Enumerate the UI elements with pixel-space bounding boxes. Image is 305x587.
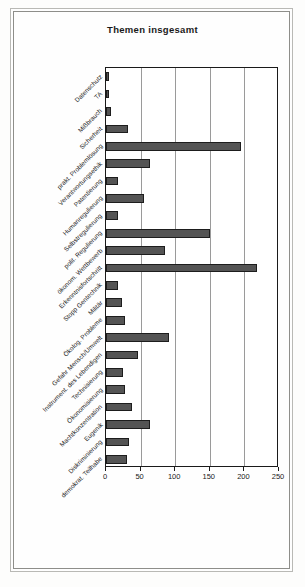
y-axis-category-label: Sicherheit [78, 125, 103, 150]
x-axis-tick-label: 250 [263, 472, 293, 481]
y-axis-category-label: TA [93, 90, 103, 100]
bar-row [106, 159, 277, 168]
y-axis-category-label: Diskriminierung [67, 438, 104, 475]
bar-row [106, 90, 277, 99]
bar-row [106, 385, 277, 394]
bar-series [106, 68, 277, 466]
bar-row [106, 455, 277, 464]
bar [106, 455, 127, 464]
x-axis-tick-label: 200 [228, 472, 258, 481]
bar [106, 142, 241, 151]
y-axis-category-label: Stopp Gentechnik [62, 281, 103, 322]
bar-row [106, 229, 277, 238]
x-axis-tick [278, 467, 279, 471]
y-axis-category-label: Gefahr Mensch/Umwelt [51, 334, 104, 387]
y-axis-category-label: Selbstregulierung [63, 212, 104, 253]
y-axis-category-label: Ökonomisierung [65, 386, 103, 424]
bar-row [106, 298, 277, 307]
bar [106, 298, 122, 307]
bar [106, 177, 118, 186]
x-axis-tick [105, 467, 106, 471]
y-axis-category-label: prakt. Problemlösung [55, 142, 103, 190]
bar-row [106, 403, 277, 412]
chart-figure: 050100150200250 DatenschutzTAMißbrauchSi… [0, 0, 305, 587]
y-axis-category-label: Machtkonzentration [58, 403, 103, 448]
x-axis-tick [174, 467, 175, 471]
bar-row [106, 281, 277, 290]
bar-row [106, 368, 277, 377]
x-axis-tick-label: 50 [125, 472, 155, 481]
bar [106, 229, 210, 238]
y-axis-category-label: Technisierung [70, 368, 103, 401]
bar [106, 403, 132, 412]
bar-row [106, 72, 277, 81]
bar-row [106, 211, 277, 220]
bar [106, 72, 109, 81]
bar-row [106, 316, 277, 325]
bar [106, 420, 150, 429]
x-axis-tick-label: 150 [194, 472, 224, 481]
y-axis-category-label: Eugenik [82, 421, 104, 443]
bar-row [106, 107, 277, 116]
bar [106, 351, 138, 360]
bar [106, 194, 144, 203]
y-axis-category-label: Militär [86, 299, 103, 316]
bar [106, 264, 257, 273]
y-axis-category-label: Ökolog. Probleme [62, 316, 104, 358]
y-axis-category-label: Humanregulierung [61, 194, 104, 237]
y-axis-category-label: Erkenntnisfortschritt [58, 264, 104, 310]
x-axis-tick-label: 0 [90, 472, 120, 481]
bar [106, 438, 129, 447]
bar [106, 125, 128, 134]
bar-row [106, 333, 277, 342]
plot-area [105, 67, 278, 467]
y-axis-category-label: ökonom. Wettbewerb [55, 247, 103, 295]
bar-row [106, 177, 277, 186]
bar [106, 107, 111, 116]
x-axis-tick [140, 467, 141, 471]
y-axis-category-label: Patentierung [72, 177, 103, 208]
x-axis-tick [209, 467, 210, 471]
bar-row [106, 438, 277, 447]
y-axis-category-label: Mißbrauch [77, 107, 104, 134]
y-axis-category-label: Datenschutz [73, 73, 103, 103]
bar-row [106, 142, 277, 151]
bar [106, 368, 123, 377]
y-axis-category-label: Verantwortungsethik [57, 160, 104, 207]
scanned-page: Themen insgesamt 050100150200250 Datensc… [0, 0, 305, 587]
bar [106, 316, 125, 325]
bar-row [106, 246, 277, 255]
bar [106, 246, 165, 255]
y-axis-category-label: Instrument. des Lebendigen [42, 351, 104, 413]
bar [106, 333, 169, 342]
x-axis-tick [243, 467, 244, 471]
bar [106, 385, 125, 394]
bar [106, 211, 118, 220]
bar-row [106, 420, 277, 429]
bar [106, 90, 109, 99]
y-axis-category-label: polit. Regulierung [63, 229, 104, 270]
bar-row [106, 264, 277, 273]
bar-row [106, 194, 277, 203]
x-axis-tick-label: 100 [159, 472, 189, 481]
bar [106, 281, 118, 290]
bar-row [106, 351, 277, 360]
bar-row [106, 125, 277, 134]
bar [106, 159, 150, 168]
